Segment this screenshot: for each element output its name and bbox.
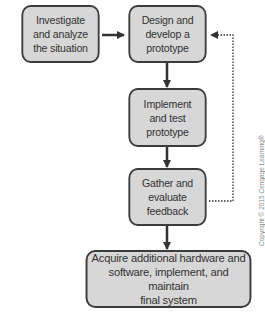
node-implement: Implement and test prototype (128, 88, 206, 147)
node-acquire-label: Acquire additional hardware and software… (88, 251, 250, 307)
node-design-label: Design and develop a prototype (142, 13, 194, 55)
feedback-loop-dotted-arrow (209, 35, 233, 201)
node-gather-label: Gather and evaluate feedback (142, 176, 193, 218)
node-gather: Gather and evaluate feedback (128, 168, 206, 226)
node-implement-label: Implement and test prototype (144, 97, 192, 139)
node-acquire: Acquire additional hardware and software… (86, 250, 252, 308)
copyright-text: Copyright © 2015 Cengage Learning® (258, 135, 265, 246)
node-investigate-label: Investigate and analyze the situation (33, 13, 88, 55)
node-design: Design and develop a prototype (128, 5, 206, 63)
node-investigate: Investigate and analyze the situation (21, 5, 99, 63)
